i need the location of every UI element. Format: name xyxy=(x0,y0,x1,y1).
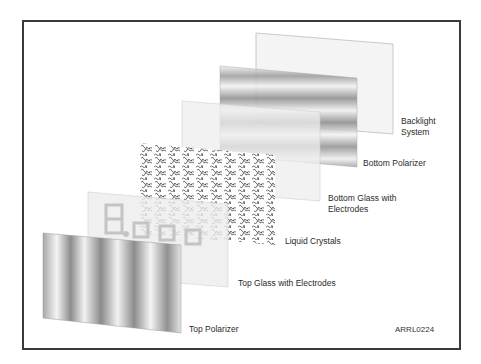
layer-stack xyxy=(0,0,481,364)
label-liquid-crystals: Liquid Crystals xyxy=(285,236,341,247)
label-bottom-glass: Bottom Glass withElectrodes xyxy=(328,193,397,215)
label-backlight: BacklightSystem xyxy=(401,116,436,138)
label-top-glass: Top Glass with Electrodes xyxy=(238,278,336,289)
figure-id: ARRL0224 xyxy=(395,325,434,334)
top-polarizer-layer xyxy=(43,233,181,333)
label-bottom-polarizer: Bottom Polarizer xyxy=(363,158,426,169)
label-top-polarizer: Top Polarizer xyxy=(189,324,239,335)
